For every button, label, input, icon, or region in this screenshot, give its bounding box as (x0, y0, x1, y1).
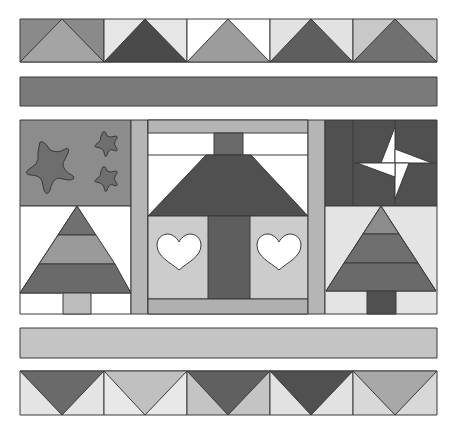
door (208, 216, 250, 299)
tree-trunk (63, 293, 91, 314)
star-block (20, 120, 131, 206)
light-strip-border (20, 328, 437, 358)
tree-block-left (20, 206, 131, 314)
chimney (214, 133, 243, 155)
house-block (148, 120, 308, 314)
pinwheel-block (325, 120, 437, 206)
house-bottom-border (148, 299, 308, 314)
bottom-flying-geese-border (20, 371, 437, 415)
tree-block-right (325, 206, 437, 314)
sashing-left (131, 120, 148, 314)
sashing-right (308, 120, 325, 314)
tree-trunk (367, 291, 396, 314)
dark-strip-border (20, 77, 437, 106)
center-panel (20, 120, 437, 314)
house-top-border (148, 120, 308, 133)
quilt-diagram (0, 0, 453, 438)
top-flying-geese-border (20, 19, 437, 62)
